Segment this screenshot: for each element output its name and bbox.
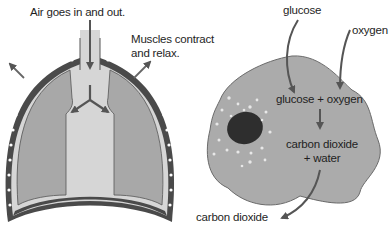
muscles-label-line1: Muscles contract (131, 33, 214, 46)
air-label: Air goes in and out. (30, 6, 125, 19)
right-lung (107, 70, 162, 205)
muscles-label-line2: and relax. (131, 47, 180, 60)
products-label-line1: carbon dioxide (284, 138, 360, 151)
cell-diagram (207, 20, 380, 218)
products-label-line2: + water (284, 152, 360, 165)
output-label: carbon dioxide (196, 211, 268, 224)
oxygen-label: oxygen (352, 24, 388, 37)
left-lung (17, 70, 72, 205)
glucose-label: glucose (283, 4, 321, 17)
reactants-label: glucose + oxygen (276, 93, 363, 106)
